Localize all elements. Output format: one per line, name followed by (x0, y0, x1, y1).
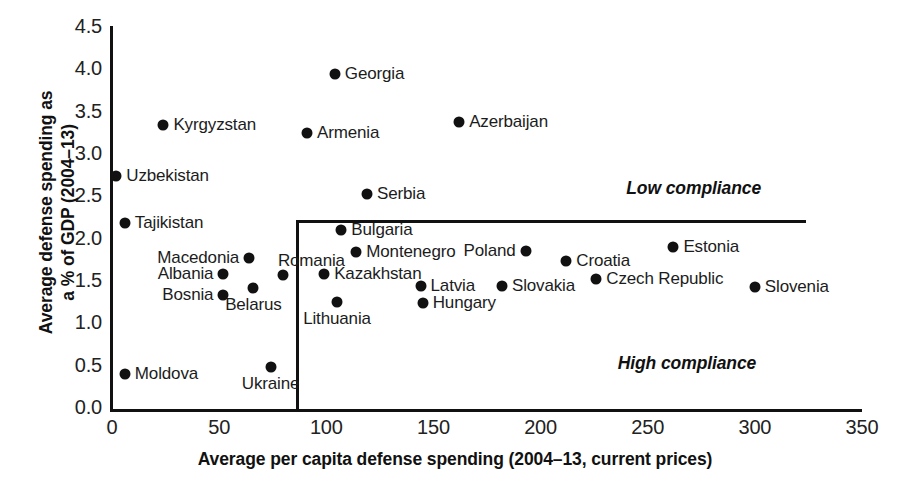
data-point-label: Hungary (433, 293, 496, 313)
data-point (362, 188, 373, 199)
data-point-label: Kyrgyzstan (173, 115, 256, 135)
data-point (329, 68, 340, 79)
data-point-label: Serbia (377, 184, 425, 204)
data-point (119, 369, 130, 380)
y-axis-line (110, 26, 113, 411)
y-axis-title: Average defense spending as a % of GDP (… (35, 47, 80, 377)
data-point (497, 281, 508, 292)
data-point-label: Armenia (317, 123, 379, 143)
data-point (668, 242, 679, 253)
x-tick-label: 300 (738, 416, 771, 439)
data-point-label: Uzbekistan (126, 166, 209, 186)
data-point-label: Bulgaria (351, 220, 412, 240)
region-label: High compliance (618, 353, 757, 374)
data-point (415, 281, 426, 292)
data-point (244, 253, 255, 264)
data-point-label: Azerbaijan (469, 112, 548, 132)
data-point-label: Albania (158, 264, 214, 284)
data-point-label: Czech Republic (606, 269, 723, 289)
data-point (520, 245, 531, 256)
x-tick-label: 200 (524, 416, 557, 439)
data-point-label: Croatia (576, 251, 630, 271)
y-axis-title-line1: Average defense spending as (35, 47, 57, 377)
data-point (561, 255, 572, 266)
data-point-label: Tajikistan (135, 213, 203, 233)
data-point (111, 171, 122, 182)
data-point-label: Belarus (225, 295, 282, 315)
data-point (158, 120, 169, 131)
data-point-label: Kazakhstan (334, 264, 421, 284)
x-axis-title: Average per capita defense spending (200… (0, 449, 910, 470)
data-point (749, 282, 760, 293)
data-point-label: Slovakia (512, 276, 575, 296)
data-point (218, 289, 229, 300)
data-point (119, 217, 130, 228)
x-tick-label: 350 (846, 416, 879, 439)
data-point-label: Estonia (683, 237, 739, 257)
x-tick-label: 100 (310, 416, 343, 439)
data-point (591, 274, 602, 285)
y-axis-title-line2: a % of GDP (2004–13) (57, 47, 79, 377)
data-point (336, 225, 347, 236)
data-point-label: Poland (464, 241, 516, 261)
plot-area: 0.00.51.01.52.02.53.03.54.04.5 050100150… (0, 0, 910, 492)
x-tick-label: 0 (107, 416, 118, 439)
data-point-label: Slovenia (765, 277, 829, 297)
data-point (248, 282, 259, 293)
region-label: Low compliance (626, 178, 761, 199)
data-point-label: Georgia (345, 64, 404, 84)
data-point (332, 297, 343, 308)
data-point (319, 268, 330, 279)
data-point-label: Lithuania (303, 309, 371, 329)
data-point-label: Moldova (135, 364, 198, 384)
x-axis-line (110, 409, 862, 412)
data-point (302, 127, 313, 138)
data-point-label: Bosnia (162, 285, 213, 305)
data-point (278, 270, 289, 281)
x-tick-label: 150 (417, 416, 450, 439)
data-point (454, 116, 465, 127)
data-point-label: Ukraine (242, 374, 300, 394)
data-point (417, 298, 428, 309)
data-point (351, 246, 362, 257)
data-point (218, 268, 229, 279)
data-point (265, 361, 276, 372)
x-tick-label: 250 (631, 416, 664, 439)
scatter-chart: 0.00.51.01.52.02.53.03.54.04.5 050100150… (0, 0, 910, 492)
x-tick-label: 50 (208, 416, 230, 439)
data-point-label: Montenegro (366, 242, 455, 262)
